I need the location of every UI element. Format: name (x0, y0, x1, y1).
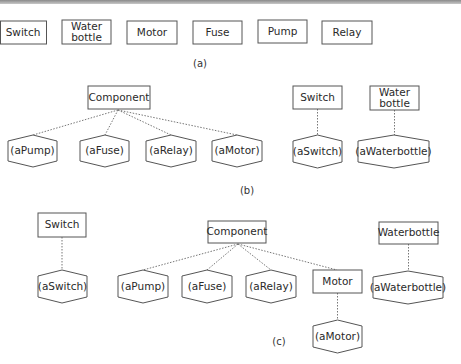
class-box-waterbottle: Waterbottle (378, 222, 440, 244)
class-label: Fuse (205, 26, 229, 38)
instance-arelay: (aRelay) (246, 270, 296, 303)
instance-aswitch: (aSwitch) (38, 270, 87, 303)
panel-c: Switch (aSwitch) Component (aPump) (aFus… (38, 213, 446, 353)
class-label-line2: bottle (379, 97, 410, 109)
class-label: Component (89, 91, 150, 103)
instance-label: (aRelay) (249, 280, 292, 292)
instance-label: (aPump) (10, 144, 54, 156)
class-box-component: Component (207, 221, 268, 243)
instance-amotor: (aMotor) (313, 320, 362, 353)
class-box-water-bottle: Water bottle (62, 20, 111, 44)
class-box-motor: Motor (313, 270, 362, 293)
instance-label: (aWaterbottle) (355, 145, 431, 157)
class-label-line2: bottle (71, 31, 102, 43)
class-label: Switch (45, 218, 80, 230)
class-instance-diagram: Switch Water bottle Motor Fuse Pump Rela… (0, 0, 461, 364)
instance-label: (aPump) (121, 280, 165, 292)
instance-awaterbottle: (aWaterbottle) (355, 135, 431, 168)
instance-label: (aSwitch) (293, 145, 342, 157)
instance-label: (aMotor) (215, 144, 260, 156)
panel-a: Switch Water bottle Motor Fuse Pump Rela… (1, 20, 373, 69)
caption-b: (b) (240, 185, 254, 196)
class-label: Waterbottle (378, 226, 440, 238)
instance-amotor: (aMotor) (212, 135, 262, 167)
instance-apump: (aPump) (8, 135, 57, 167)
instance-arelay: (aRelay) (146, 135, 196, 167)
panel-b: Component (aPump) (aFuse) (aRelay) (aMot… (8, 86, 432, 196)
instance-awaterbottle: (aWaterbottle) (370, 271, 446, 304)
class-label: Motor (322, 275, 353, 287)
class-box-switch: Switch (1, 21, 47, 44)
instance-aswitch: (aSwitch) (293, 135, 342, 168)
class-box-fuse: Fuse (193, 21, 242, 44)
instance-label: (aFuse) (85, 144, 124, 156)
class-box-switch: Switch (38, 213, 86, 237)
class-label: Switch (6, 26, 41, 38)
caption-c: (c) (272, 336, 285, 347)
class-label: Switch (300, 91, 335, 103)
instance-label: (aFuse) (188, 280, 227, 292)
class-box-switch: Switch (293, 86, 342, 109)
class-box-relay: Relay (322, 21, 372, 44)
class-label: Motor (137, 26, 168, 38)
instance-label: (aWaterbottle) (370, 281, 446, 293)
class-label: Component (207, 225, 268, 237)
class-box-motor: Motor (127, 21, 177, 44)
class-box-component: Component (88, 86, 150, 109)
class-box-pump: Pump (258, 20, 307, 43)
instance-label: (aMotor) (315, 330, 360, 342)
instance-afuse: (aFuse) (80, 135, 129, 167)
instance-label: (aSwitch) (38, 280, 87, 292)
caption-a: (a) (193, 58, 207, 69)
class-label: Pump (268, 25, 298, 37)
class-box-water-bottle: Water bottle (370, 86, 419, 110)
instance-apump: (aPump) (118, 270, 168, 303)
class-label: Relay (333, 26, 362, 38)
instance-label: (aRelay) (149, 144, 192, 156)
instance-afuse: (aFuse) (182, 270, 232, 303)
